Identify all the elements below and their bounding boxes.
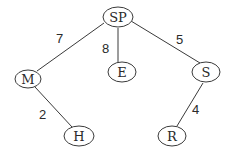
- edge-weight-sp-m: 7: [56, 31, 63, 46]
- node-r-label: R: [167, 129, 178, 144]
- node-h: H: [64, 126, 94, 146]
- edge-weight-sp-s: 5: [176, 32, 183, 47]
- node-m-label: M: [21, 72, 34, 87]
- node-sp: SP: [103, 7, 133, 27]
- edge-sp-m: [37, 23, 104, 71]
- node-m: M: [15, 70, 41, 88]
- tree-diagram: 7 8 5 2 4 SP M E S H R: [0, 0, 231, 153]
- node-s: S: [192, 62, 220, 82]
- edge-weight-s-r: 4: [192, 102, 199, 117]
- edge-weight-sp-e: 8: [102, 41, 109, 56]
- node-e-label: E: [117, 65, 127, 80]
- edge-weight-m-h: 2: [39, 107, 46, 122]
- node-s-label: S: [202, 65, 211, 80]
- node-sp-label: SP: [109, 10, 127, 25]
- node-e: E: [108, 62, 136, 82]
- node-r: R: [158, 126, 186, 146]
- node-h-label: H: [73, 129, 84, 144]
- edge-sp-s: [131, 21, 200, 63]
